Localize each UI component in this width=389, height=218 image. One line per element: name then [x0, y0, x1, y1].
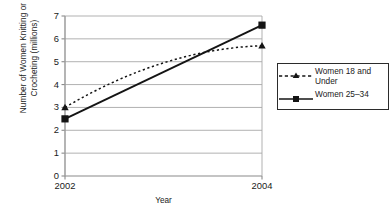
- x-tick-label: 2004: [232, 180, 292, 191]
- legend-swatch-solid-square: [278, 91, 314, 103]
- axis-lines: [62, 16, 263, 180]
- legend-label-women-25-34: Women 25–34: [314, 90, 369, 100]
- x-axis-title: Year: [65, 196, 262, 205]
- legend-item-women-25-34: Women 25–34: [278, 90, 388, 103]
- chart-legend: Women 18 and Under Women 25–34: [277, 63, 389, 110]
- legend-swatch-dashed-triangle: [278, 68, 314, 80]
- legend-label-women-18-and-under: Women 18 and Under: [314, 67, 371, 86]
- legend-item-women-18-and-under: Women 18 and Under: [278, 67, 388, 86]
- gridlines: [65, 16, 262, 153]
- x-tick-label: 2002: [35, 180, 95, 191]
